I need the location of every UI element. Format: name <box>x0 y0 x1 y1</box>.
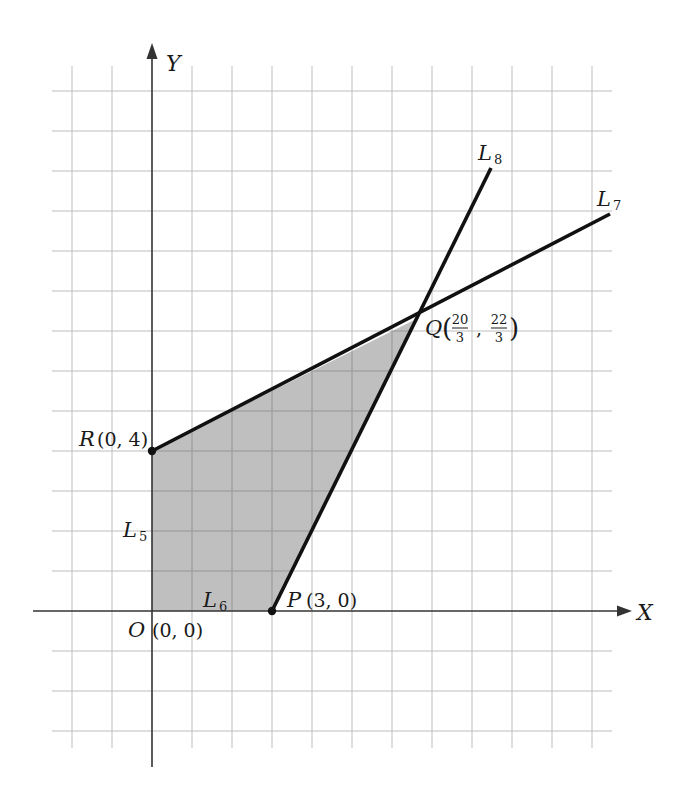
svg-text:,: , <box>476 317 482 339</box>
svg-text:8: 8 <box>494 152 502 167</box>
svg-text:(0, 0): (0, 0) <box>152 619 203 641</box>
label-O: O (0, 0) <box>128 618 203 642</box>
svg-text:P: P <box>286 588 302 612</box>
svg-text:L: L <box>202 588 217 612</box>
svg-text:Q: Q <box>425 316 442 340</box>
y-axis <box>147 43 158 767</box>
y-axis-arrow-icon <box>147 43 158 59</box>
x-axis-label: X <box>635 600 654 625</box>
label-L8: L 8 <box>477 141 502 167</box>
svg-text:L: L <box>122 518 137 542</box>
svg-text:5: 5 <box>139 529 147 544</box>
chart-canvas: Y X L 8 L 7 L 5 L 6 R (0, 4) P (3, 0) O … <box>0 0 688 796</box>
svg-text:3: 3 <box>495 330 503 345</box>
svg-text:L: L <box>477 141 492 165</box>
label-R: R (0, 4) <box>78 427 148 451</box>
label-P: P (3, 0) <box>286 588 357 612</box>
label-L5: L 5 <box>122 518 147 544</box>
svg-text:7: 7 <box>613 198 621 213</box>
svg-text:O: O <box>128 618 145 642</box>
line-L7 <box>152 214 610 451</box>
svg-text:(0, 4): (0, 4) <box>97 428 148 450</box>
y-axis-label: Y <box>166 51 183 76</box>
label-L7: L 7 <box>596 187 621 213</box>
svg-text:R: R <box>78 427 95 451</box>
svg-text:3: 3 <box>456 330 464 345</box>
svg-text:(3, 0): (3, 0) <box>306 589 357 611</box>
svg-text:20: 20 <box>452 312 469 327</box>
svg-text:22: 22 <box>491 312 508 327</box>
point-P <box>268 607 276 615</box>
x-axis-arrow-icon <box>617 606 632 617</box>
svg-text:): ) <box>509 313 519 343</box>
svg-text:L: L <box>596 187 611 211</box>
point-R <box>148 447 156 455</box>
svg-text:6: 6 <box>219 599 227 614</box>
svg-text:(: ( <box>442 313 452 343</box>
